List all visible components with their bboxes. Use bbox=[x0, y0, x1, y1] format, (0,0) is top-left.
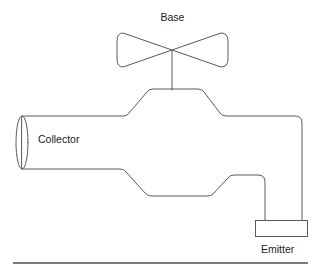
emitter-flange-box bbox=[256, 221, 308, 237]
emitter-label: Emitter bbox=[261, 243, 294, 255]
faucet-transistor-diagram: Base Collector Emitter bbox=[0, 0, 321, 273]
valve-body-outline bbox=[22, 89, 302, 224]
collector-label: Collector bbox=[38, 133, 79, 145]
handle-left-wing bbox=[117, 33, 172, 67]
handle-right-wing bbox=[172, 33, 228, 67]
base-label: Base bbox=[0, 11, 321, 23]
